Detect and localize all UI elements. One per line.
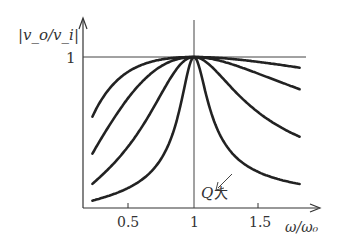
x-tick-label-1.5: 1.5 (249, 214, 271, 230)
x-tick-label-1: 1 (190, 214, 199, 230)
frequency-response-chart: |v_o/v_i| 1 0.5 1 1.5 ω/ω₀ Q 大 (0, 0, 344, 250)
x-tick-label-0.5: 0.5 (117, 214, 139, 230)
response-curves (92, 57, 299, 201)
y-axis-label: |v_o/v_i| (18, 26, 79, 44)
annotation-big: 大 (214, 185, 228, 201)
response-curve-2 (92, 57, 299, 154)
y-tick-label-1: 1 (66, 49, 76, 67)
x-axis-label: ω/ω₀ (285, 219, 319, 235)
annotation-q: Q (201, 184, 213, 202)
response-curve-1 (92, 57, 299, 117)
